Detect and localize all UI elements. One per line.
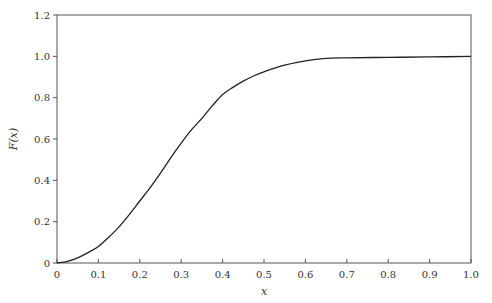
x-tick-label: 0.8: [380, 269, 396, 280]
cdf-chart: 00.20.40.60.81.01.2 00.10.20.30.40.50.60…: [0, 0, 492, 303]
x-tick-label: 0.5: [256, 269, 272, 280]
x-tick-label: 0.7: [339, 269, 355, 280]
x-tick-label: 0.3: [173, 269, 189, 280]
plot-area-border: [57, 15, 471, 263]
x-axis-label: x: [261, 285, 268, 298]
y-tick-label: 0.6: [34, 134, 50, 145]
y-axis-ticks: 00.20.40.60.81.01.2: [34, 10, 57, 269]
y-tick-label: 1.2: [34, 10, 50, 21]
plot-frame: [57, 15, 471, 263]
y-tick-label: 1.0: [34, 51, 50, 62]
x-tick-label: 0.6: [297, 269, 313, 280]
x-tick-label: 1.0: [463, 269, 479, 280]
y-tick-label: 0.4: [34, 175, 50, 186]
x-tick-label: 0.9: [422, 269, 438, 280]
y-tick-label: 0.8: [34, 92, 50, 103]
x-tick-label: 0.2: [132, 269, 148, 280]
y-axis-label: F(x): [7, 128, 20, 151]
cdf-curve: [57, 56, 471, 263]
y-tick-label: 0: [44, 258, 50, 269]
x-tick-label: 0: [54, 269, 60, 280]
x-tick-label: 0.4: [215, 269, 231, 280]
x-axis-ticks: 00.10.20.30.40.50.60.70.80.91.0: [54, 259, 479, 280]
y-tick-label: 0.2: [34, 216, 50, 227]
x-tick-label: 0.1: [90, 269, 106, 280]
